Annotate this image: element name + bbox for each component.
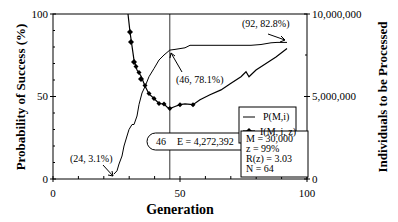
e-annotation-value: E = 4,272,392 — [177, 136, 234, 147]
y2-tick-0: 0 — [312, 173, 318, 185]
y-tick-50: 50 — [37, 90, 49, 102]
y2-tick-10m: 10,000,000 — [312, 8, 362, 20]
annotation-24: (24, 3.1%) — [70, 153, 113, 165]
y-tick-100: 100 — [32, 8, 49, 20]
x-tick-0: 0 — [50, 187, 56, 199]
annotation-92: (92, 82.8%) — [242, 18, 290, 30]
x-axis-label: Generation — [146, 202, 214, 217]
legend-label-p: P(M,i) — [263, 111, 289, 123]
y-axis-label: Probability of Success (%) — [13, 24, 28, 171]
x-tick-100: 100 — [299, 187, 316, 199]
param-n: N = 64 — [246, 163, 274, 174]
x-tick-50: 50 — [175, 187, 187, 199]
y-tick-0: 0 — [43, 173, 49, 185]
e-annotation-gen: 46 — [156, 136, 166, 147]
annotation-46: (46, 78.1%) — [176, 74, 224, 86]
chart: 100 50 0 0 50 100 10,000,000 5,000,000 0… — [0, 0, 398, 222]
y2-axis-label: Individuals to be Processed — [375, 21, 390, 173]
y2-tick-5m: 5,000,000 — [312, 90, 357, 102]
